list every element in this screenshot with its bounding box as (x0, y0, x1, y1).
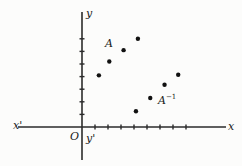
x-negative-axis-label: x' (13, 120, 22, 131)
axes-group (18, 12, 226, 160)
scatter-plot-figure: y y' x x' O A A−1 (0, 0, 242, 166)
plot-canvas (0, 0, 242, 166)
data-point (162, 83, 166, 87)
data-point (121, 48, 125, 52)
data-point (107, 59, 111, 63)
data-point (148, 96, 152, 100)
series-label-a-inverse-superscript: −1 (166, 93, 176, 101)
series-label-a: A (105, 38, 113, 49)
series-label-a-inverse-text: A (158, 94, 166, 107)
y-negative-axis-label: y' (86, 133, 95, 144)
data-point (134, 109, 138, 113)
y-axis-label: y (86, 8, 92, 19)
data-point (136, 37, 140, 41)
x-axis-label: x (228, 121, 234, 132)
origin-label: O (70, 131, 79, 142)
series-label-a-inverse: A−1 (158, 95, 176, 106)
data-point (97, 73, 101, 77)
data-point (176, 73, 180, 77)
series-label-a-text: A (105, 37, 113, 50)
